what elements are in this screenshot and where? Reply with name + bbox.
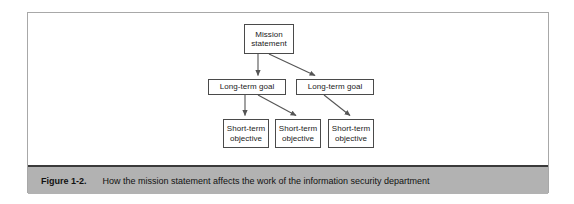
node-mission-statement-line-1: Mission [255,30,282,40]
node-mission-statement: Mission statement [244,24,294,54]
node-short-term-objective-1-line-2: objective [230,134,262,144]
node-long-term-goal-1: Long-term goal [208,79,286,95]
node-short-term-objective-3: Short-term objective [328,119,374,148]
node-short-term-objective-2-line-2: objective [282,134,314,144]
node-short-term-objective-1-line-1: Short-term [227,124,265,134]
node-long-term-goal-1-label: Long-term goal [220,82,275,92]
node-short-term-objective-3-line-1: Short-term [332,124,370,134]
node-short-term-objective-2-line-1: Short-term [279,124,317,134]
node-short-term-objective-1: Short-term objective [223,119,269,148]
diagram-canvas: Mission statement Long-term goal Long-te… [28,13,548,165]
figure-root: Mission statement Long-term goal Long-te… [0,0,574,204]
node-short-term-objective-3-line-2: objective [335,134,367,144]
node-long-term-goal-2-label: Long-term goal [308,82,363,92]
node-short-term-objective-2: Short-term objective [275,119,321,148]
edge-goal-2-to-objective-3 [324,95,350,116]
node-long-term-goal-2: Long-term goal [296,79,374,95]
figure-caption-bar: Figure 1-2. How the mission statement af… [28,165,548,194]
figure-frame: Mission statement Long-term goal Long-te… [27,12,549,193]
figure-caption-label: Figure 1-2. [41,176,87,186]
figure-caption-text: How the mission statement affects the wo… [103,176,430,186]
edge-mission-to-goal-2 [269,54,315,76]
edge-goal-1-to-objective-2 [258,95,296,116]
node-mission-statement-line-2: statement [251,39,287,49]
